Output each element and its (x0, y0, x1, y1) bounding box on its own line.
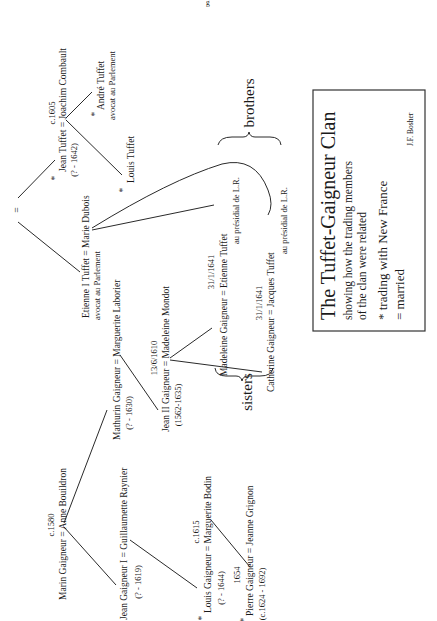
trader-star-icon: * (118, 187, 128, 192)
person-madeleine-gaigneur: 31/1/1641 Madeleine Gaigneur = Etienne T… (206, 177, 241, 376)
name: Mathurin Gaigneur = Marguerite Laborier (112, 279, 122, 440)
name: Catherine Gaigneur = Jacques Tuffet (266, 252, 276, 392)
legend-subtitle-1: showing how the trading members (342, 160, 355, 320)
family-tree-diagram: g = c.1605 * Jean Tuffet = Joachim Comba… (0, 0, 437, 621)
role: avocat au Parlement (92, 250, 102, 320)
trader-star-icon: * (50, 175, 60, 180)
page-marker: g (206, 0, 210, 7)
line-equals-to-etienne-i (18, 222, 80, 272)
name: Louis Gaigneur = Marguerite Bodin (203, 476, 213, 613)
legend-author: J.F. Bosher (406, 112, 415, 146)
person-jean-ii-gaigneur: 13/6/1610 Jean II Gaigneur = Madeleine M… (149, 286, 183, 432)
lifespan: (c.1624 - 1692) (257, 568, 267, 621)
person-marin-gaigneur: c.1580 Marin Gaigneur = Anne Bouildron (46, 468, 68, 600)
name: Jean Tuffet = Joachim Combault (58, 48, 68, 172)
person-louis-gaigneur: c.1615 * Louis Gaigneur = Marguerite Bod… (191, 476, 226, 621)
marriage-date: c.1580 (46, 514, 56, 537)
person-jean-gaigneur-i: Jean Gaigneur I = Guillaumette Raynier (… (119, 467, 143, 620)
person-pierre-gaigneur: 1654 * Pierre Gaigneur = Jeanne Grignon … (232, 485, 267, 621)
person-louis-tuffet: * Louis Tuffet (118, 136, 136, 193)
role: au présidial de L.R. (279, 187, 289, 254)
marriage-symbol-top: = (12, 207, 22, 212)
lifespan: (? - 1630) (124, 396, 134, 430)
legend-title: The Tuffet-Gaigneur Clan (317, 112, 340, 321)
lifespan: (? - 1642) (69, 143, 79, 177)
trader-star-icon: * (197, 615, 207, 620)
legend-key-married: = married (392, 268, 407, 320)
name: André Tuffet (96, 60, 106, 110)
line-jean-ii-to-madeleine (170, 328, 212, 358)
name: Pierre Gaigneur = Jeanne Grignon (245, 485, 255, 616)
person-catherine-gaigneur: 31/1/1641 Catherine Gaigneur = Jacques T… (254, 187, 289, 392)
name: Jean II Gaigneur = Madeleine Mondot (161, 286, 171, 432)
line-jean-to-andre (66, 92, 92, 118)
line-marin-to-mathurin (64, 410, 107, 523)
brothers-brace (218, 132, 281, 145)
trader-star-icon: * (239, 617, 249, 621)
legend-key-trading: * trading with New France (375, 180, 390, 320)
marriage-date: 31/1/1641 (206, 255, 216, 289)
marriage-date: 13/6/1610 (149, 341, 159, 375)
name: Jean Gaigneur I = Guillaumette Raynier (119, 467, 129, 620)
marriage-date: c.1615 (191, 521, 201, 544)
lifespan: (? - 1644) (216, 571, 226, 605)
legend-box: The Tuffet-Gaigneur Clan showing how the… (313, 90, 425, 331)
lifespan: (1562-1635) (173, 384, 183, 427)
line-marin-to-jean-i (64, 527, 116, 585)
legend-subtitle-2: of the clan were related (356, 212, 368, 320)
person-etienne-i-tuffet: Etienne I Tuffet = Marie Dubois avocat a… (81, 195, 102, 320)
person-andre-tuffet: * André Tuffet avocat au Parlement (90, 50, 117, 120)
sisters-label: sisters (239, 373, 255, 411)
role: au présidial de L.R. (231, 177, 241, 244)
marriage-date: 1654 (232, 566, 242, 584)
brothers-label: brothers (241, 78, 257, 127)
marriage-date: 31/1/1641 (254, 286, 264, 320)
marriage-date: c.1605 (47, 102, 57, 125)
name: Louis Tuffet (126, 136, 136, 183)
trader-star-icon: * (90, 111, 100, 116)
name: Marin Gaigneur = Anne Bouildron (58, 468, 68, 600)
name: Madeleine Gaigneur = Etienne Tuffet (219, 233, 229, 376)
name: Etienne I Tuffet = Marie Dubois (81, 195, 91, 318)
lifespan: (? - 1619) (133, 565, 143, 599)
person-jean-tuffet: c.1605 * Jean Tuffet = Joachim Combault … (47, 48, 79, 181)
role: avocat au Parlement (107, 50, 117, 120)
